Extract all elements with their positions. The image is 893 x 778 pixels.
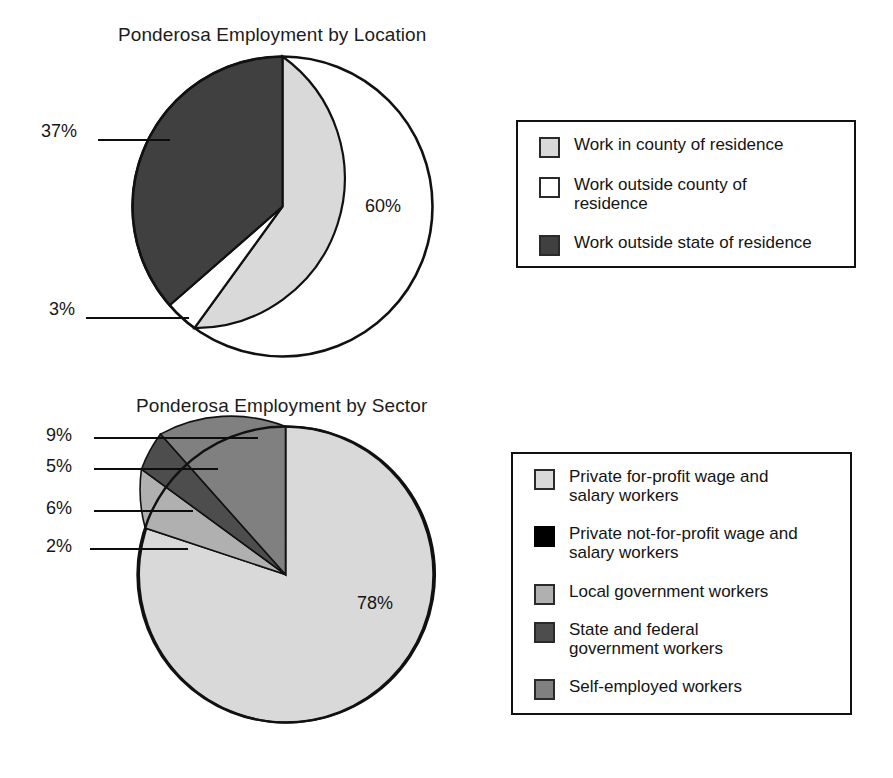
legend-location: Work in county of residence Work outside… (516, 120, 856, 268)
callout-label-3: 3% (49, 299, 75, 320)
leader-line-37 (98, 139, 170, 141)
leader-line-3 (86, 317, 189, 319)
pie-value-label-78: 78% (357, 593, 393, 614)
callout-label-9: 9% (46, 425, 72, 446)
legend-label-private-for-profit: Private for-profit wage and salary worke… (569, 467, 768, 505)
callout-label-37: 37% (41, 121, 77, 142)
leader-line-2 (90, 548, 188, 550)
legend-label-state-federal-government: State and federal government workers (569, 620, 723, 658)
legend-swatch-icon-local-government (534, 584, 555, 605)
legend-item-self-employed[interactable]: Self-employed workers (534, 677, 742, 700)
callout-label-5: 5% (46, 456, 72, 477)
legend-item-private-for-profit[interactable]: Private for-profit wage and salary worke… (534, 467, 768, 505)
legend-sector: Private for-profit wage and salary worke… (511, 452, 852, 715)
callout-label-2: 2% (46, 536, 72, 557)
legend-label-local-government: Local government workers (569, 582, 768, 601)
legend-swatch-icon-work-outside-state (539, 235, 560, 256)
legend-swatch-icon-self-employed (534, 679, 555, 700)
legend-swatch-icon-work-outside-county (539, 177, 560, 198)
leader-line-5 (94, 468, 218, 470)
callout-label-6: 6% (46, 498, 72, 519)
legend-item-work-in-county[interactable]: Work in county of residence (539, 135, 783, 158)
pie-value-label-60: 60% (365, 196, 401, 217)
legend-swatch-icon-private-not-for-profit (534, 526, 555, 547)
figure-canvas: Ponderosa Employment by Location 60% 37%… (0, 0, 893, 778)
legend-label-work-in-county: Work in county of residence (574, 135, 783, 154)
legend-label-private-not-for-profit: Private not-for-profit wage and salary w… (569, 524, 798, 562)
chart-title-sector: Ponderosa Employment by Sector (136, 395, 427, 417)
leader-line-9 (94, 437, 258, 439)
legend-swatch-icon-work-in-county (539, 137, 560, 158)
legend-item-work-outside-state[interactable]: Work outside state of residence (539, 233, 812, 256)
legend-item-private-not-for-profit[interactable]: Private not-for-profit wage and salary w… (534, 524, 798, 562)
chart-title-location: Ponderosa Employment by Location (118, 24, 426, 46)
legend-swatch-icon-private-for-profit (534, 469, 555, 490)
legend-item-work-outside-county[interactable]: Work outside county of residence (539, 175, 747, 213)
leader-line-6 (94, 510, 193, 512)
legend-label-work-outside-county: Work outside county of residence (574, 175, 747, 213)
legend-item-state-federal-government[interactable]: State and federal government workers (534, 620, 723, 658)
legend-label-work-outside-state: Work outside state of residence (574, 233, 812, 252)
legend-label-self-employed: Self-employed workers (569, 677, 742, 696)
legend-swatch-icon-state-federal-government (534, 622, 555, 643)
legend-item-local-government[interactable]: Local government workers (534, 582, 768, 605)
